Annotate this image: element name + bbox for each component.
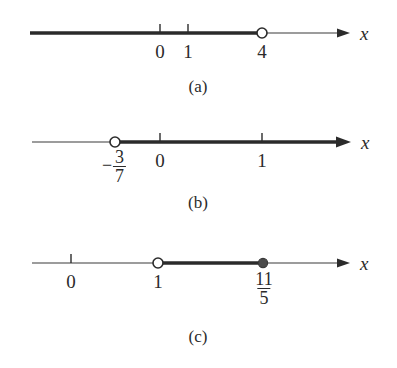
point-label-b-neg-three-sevenths: − 3 7 xyxy=(102,148,126,186)
tick-label-a-1: 1 xyxy=(183,42,193,61)
axis-label-b: x xyxy=(361,133,369,152)
point-label-c-1: 1 xyxy=(153,272,163,291)
axis-arrowhead-c xyxy=(337,259,350,268)
numberline-panel-c: 0 1 11 5 x (c) xyxy=(0,225,397,368)
fraction-numerator-c: 11 xyxy=(253,270,274,288)
numberline-panel-a: 0 1 4 x (a) xyxy=(0,0,397,110)
numberline-panel-b: 0 1 − 3 7 x (b) xyxy=(0,110,397,225)
closed-point-c-eleven-fifths xyxy=(258,258,267,267)
axis-arrowhead-a xyxy=(337,29,350,38)
tick-label-b-0: 0 xyxy=(155,151,165,170)
fraction-c: 11 5 xyxy=(253,270,274,308)
open-point-c-1 xyxy=(153,258,163,268)
point-label-c-eleven-fifths: 11 5 xyxy=(253,270,274,308)
tick-label-a-0: 0 xyxy=(155,42,165,61)
open-point-b-neg-three-sevenths xyxy=(110,137,120,147)
panel-caption-b: (b) xyxy=(188,194,208,211)
tick-label-c-0: 0 xyxy=(66,272,76,291)
fraction-denominator-b: 7 xyxy=(113,166,126,185)
open-point-a-4 xyxy=(257,28,267,38)
axis-arrowhead-b xyxy=(336,137,351,148)
fraction-sign-b: − xyxy=(102,155,112,176)
axis-label-c: x xyxy=(360,254,368,273)
panel-caption-c: (c) xyxy=(189,328,208,345)
axis-label-a: x xyxy=(360,24,368,43)
numberline-graph-c xyxy=(0,225,397,368)
fraction-denominator-c: 5 xyxy=(258,288,271,307)
panel-caption-a: (a) xyxy=(189,78,208,95)
fraction-numerator-b: 3 xyxy=(113,148,126,166)
tick-label-b-1: 1 xyxy=(257,151,267,170)
point-label-a-4: 4 xyxy=(257,42,267,61)
fraction-b: 3 7 xyxy=(113,148,126,186)
